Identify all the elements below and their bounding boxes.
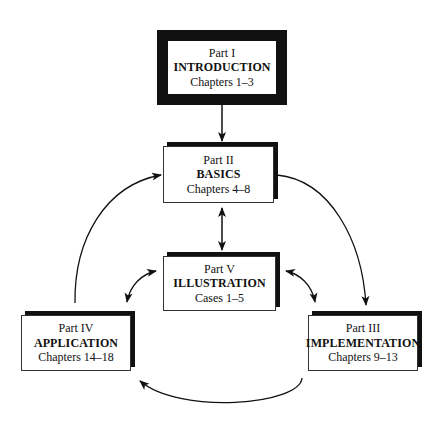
arrow-basics-to-implementation: [277, 175, 366, 305]
node-part-label: Part V: [204, 262, 235, 277]
node-title: INTRODUCTION: [173, 60, 270, 75]
node-illustration: Part V ILLUSTRATION Cases 1–5: [163, 256, 276, 311]
arrow-implementation-to-application: [140, 378, 302, 403]
node-application: Part IV APPLICATION Chapters 14–18: [21, 315, 131, 371]
node-title: IMPLEMENTATION: [306, 336, 420, 351]
node-title: BASICS: [197, 167, 241, 182]
node-range: Chapters 9–13: [328, 350, 398, 365]
node-part-label: Part III: [346, 321, 380, 336]
node-part-label: Part IV: [59, 321, 94, 336]
node-implementation: Part III IMPLEMENTATION Chapters 9–13: [308, 315, 418, 371]
node-intro: Part I INTRODUCTION Chapters 1–3: [157, 30, 287, 105]
node-range: Chapters 4–8: [187, 182, 251, 197]
node-part-label: Part I: [209, 46, 235, 61]
arrow-illustration-application: [127, 271, 156, 302]
node-basics: Part II BASICS Chapters 4–8: [163, 146, 274, 203]
node-part-label: Part II: [203, 153, 233, 168]
node-title: ILLUSTRATION: [173, 276, 265, 291]
arrow-application-to-basics: [75, 175, 161, 303]
arrow-illustration-implementation: [286, 271, 315, 302]
node-range: Cases 1–5: [195, 291, 244, 306]
node-range: Chapters 1–3: [190, 75, 254, 90]
node-range: Chapters 14–18: [38, 350, 114, 365]
node-title: APPLICATION: [34, 336, 118, 351]
